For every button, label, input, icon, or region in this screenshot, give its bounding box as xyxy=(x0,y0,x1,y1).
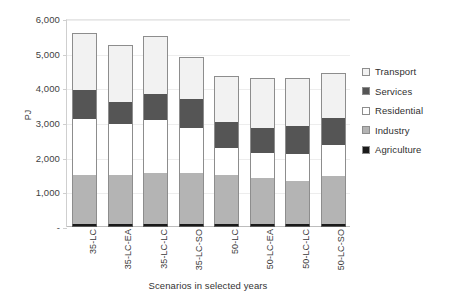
bar-segment-services[interactable] xyxy=(321,118,346,145)
x-axis-tick-label: 35-LC-SO xyxy=(194,229,204,270)
y-axis-tick-label: 2,000 xyxy=(36,152,60,163)
legend-item[interactable]: Agriculture xyxy=(362,144,448,155)
y-axis-tickmark xyxy=(63,89,67,90)
bar-segment-services[interactable] xyxy=(214,122,239,147)
bar-segment-residential[interactable] xyxy=(72,119,97,175)
legend-item-label: Transport xyxy=(375,66,416,77)
bar-segment-industry[interactable] xyxy=(321,176,346,223)
bar-segment-transport[interactable] xyxy=(108,45,133,102)
bar-column[interactable] xyxy=(179,57,204,227)
bar-segment-residential[interactable] xyxy=(108,124,133,175)
x-axis-tick-label: 50-LC-SO xyxy=(336,229,346,270)
bar-segment-industry[interactable] xyxy=(214,175,239,224)
bar-segment-industry[interactable] xyxy=(250,178,275,223)
y-axis-tickmark xyxy=(63,124,67,125)
gridline xyxy=(67,20,350,21)
bar-segment-industry[interactable] xyxy=(108,175,133,224)
bar-segment-transport[interactable] xyxy=(72,33,97,90)
stacked-bar-chart: PJ -1,0002,0003,0004,0005,0006,000 35-LC… xyxy=(0,0,449,300)
legend-item[interactable]: Residential xyxy=(362,105,448,116)
bar-segment-residential[interactable] xyxy=(285,154,310,182)
bar-segment-residential[interactable] xyxy=(143,120,168,174)
bar-segment-services[interactable] xyxy=(285,126,310,153)
y-axis-tick-labels: -1,0002,0003,0004,0005,0006,000 xyxy=(26,0,64,300)
bar-segment-residential[interactable] xyxy=(179,128,204,173)
legend-item[interactable]: Industry xyxy=(362,125,448,136)
bar-column[interactable] xyxy=(143,36,168,227)
bar-segment-services[interactable] xyxy=(179,99,204,127)
bar-segment-transport[interactable] xyxy=(214,76,239,122)
bar-segment-industry[interactable] xyxy=(143,173,168,224)
x-axis-title: Scenarios in selected years xyxy=(66,280,350,291)
legend-item[interactable]: Transport xyxy=(362,66,448,77)
legend-item[interactable]: Services xyxy=(362,86,448,97)
y-axis-tick-label: 5,000 xyxy=(36,48,60,59)
bar-column[interactable] xyxy=(321,73,346,227)
y-axis-tickmark xyxy=(63,20,67,21)
bar-segment-agriculture[interactable] xyxy=(321,224,346,227)
bar-segment-transport[interactable] xyxy=(285,78,310,126)
bar-segment-transport[interactable] xyxy=(143,36,168,94)
legend-item-label: Agriculture xyxy=(375,144,422,155)
bar-segment-agriculture[interactable] xyxy=(108,224,133,227)
x-axis-tick-label: 35-LC xyxy=(88,229,98,254)
bar-column[interactable] xyxy=(108,45,133,227)
square-swatch-icon xyxy=(362,87,370,95)
bar-column[interactable] xyxy=(214,76,239,227)
bar-column[interactable] xyxy=(250,78,275,227)
bar-segment-services[interactable] xyxy=(108,102,133,124)
bar-segment-agriculture[interactable] xyxy=(179,224,204,227)
square-swatch-icon xyxy=(362,126,370,134)
x-axis-tick-label: 50-LC-LC xyxy=(301,229,311,269)
bar-segment-agriculture[interactable] xyxy=(285,224,310,227)
square-swatch-icon xyxy=(362,107,370,115)
bar-segment-agriculture[interactable] xyxy=(214,224,239,227)
y-axis-tickmark xyxy=(63,159,67,160)
bar-segment-transport[interactable] xyxy=(250,78,275,128)
y-axis-tick-label: 1,000 xyxy=(36,187,60,198)
plot-area xyxy=(66,19,350,227)
bar-segment-transport[interactable] xyxy=(321,73,346,118)
legend-item-label: Residential xyxy=(375,105,423,116)
y-axis-tickmark xyxy=(63,193,67,194)
bar-segment-transport[interactable] xyxy=(179,57,204,99)
chart-legend: TransportServicesResidentialIndustryAgri… xyxy=(362,66,448,155)
y-axis-tick-label: - xyxy=(57,222,60,233)
bar-segment-residential[interactable] xyxy=(214,148,239,176)
bar-segment-industry[interactable] xyxy=(72,175,97,224)
bar-segment-agriculture[interactable] xyxy=(72,224,97,227)
bar-segment-residential[interactable] xyxy=(321,145,346,177)
x-axis-tick-label: 35-LC-LC xyxy=(159,229,169,269)
bar-segment-industry[interactable] xyxy=(179,173,204,224)
square-swatch-icon xyxy=(362,68,370,76)
bar-column[interactable] xyxy=(72,33,97,227)
x-axis-tick-label: 50-LC-EA xyxy=(265,229,275,269)
bar-segment-industry[interactable] xyxy=(285,181,310,224)
y-axis-tickmark xyxy=(63,55,67,56)
bar-segment-agriculture[interactable] xyxy=(143,224,168,227)
square-swatch-icon xyxy=(362,146,370,154)
bar-column[interactable] xyxy=(285,78,310,227)
y-axis-tick-label: 3,000 xyxy=(36,118,60,129)
y-axis-tick-label: 4,000 xyxy=(36,83,60,94)
x-axis-tick-labels: 35-LC35-LC-EA35-LC-LC35-LC-SO50-LC50-LC-… xyxy=(66,229,350,281)
bar-segment-services[interactable] xyxy=(72,90,97,119)
x-axis-tick-label: 35-LC-EA xyxy=(123,229,133,269)
legend-item-label: Industry xyxy=(375,125,410,136)
bar-segment-services[interactable] xyxy=(143,94,168,119)
x-axis-tick-label: 50-LC xyxy=(230,229,240,254)
bar-segment-services[interactable] xyxy=(250,128,275,153)
y-axis-tick-label: 6,000 xyxy=(36,14,60,25)
bar-segment-residential[interactable] xyxy=(250,153,275,179)
bar-segment-agriculture[interactable] xyxy=(250,224,275,227)
legend-item-label: Services xyxy=(375,86,412,97)
